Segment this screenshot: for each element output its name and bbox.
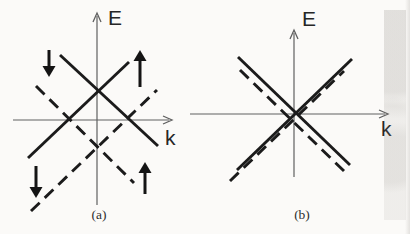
panel-a-spin-down-arrow-icon xyxy=(30,187,43,198)
energy-axis-label-a: E xyxy=(108,7,122,28)
panel-a-spin-down-band-upper xyxy=(60,55,158,146)
panel-a-spin-up-arrow-icon xyxy=(134,50,147,61)
panel-a-spin-up-arrow-icon xyxy=(139,162,152,173)
figure: E k E k (a) (b) xyxy=(0,0,410,234)
scan-artifact-noise xyxy=(384,10,406,220)
panel-a-spin-down-arrow-icon xyxy=(43,66,56,77)
panel-a-caption: (a) xyxy=(82,208,116,222)
scan-artifact-edge xyxy=(405,0,410,234)
momentum-axis-label-a: k xyxy=(165,127,176,148)
panel-a-spin-up-band-upper xyxy=(28,62,129,158)
energy-axis-label-b: E xyxy=(302,8,316,29)
panel-a-spin-up-band-lower xyxy=(31,90,157,211)
panel-b-caption: (b) xyxy=(285,208,319,222)
panel-b-spin-band-dashed-ascending xyxy=(230,71,344,181)
band-diagram-svg xyxy=(0,0,410,234)
